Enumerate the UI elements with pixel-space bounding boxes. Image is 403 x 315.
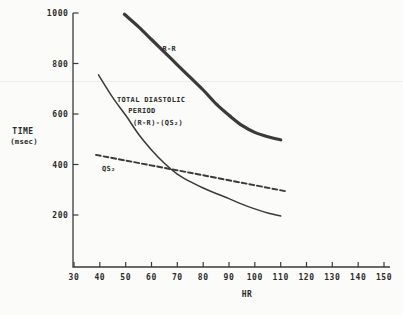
x-tick-label: 150 xyxy=(376,273,392,282)
x-tick-label: 90 xyxy=(224,273,235,282)
y-tick-label: 600 xyxy=(52,110,68,119)
total-diastolic-label-line1: TOTAL DIASTOLIC xyxy=(117,96,185,104)
x-tick-label: 70 xyxy=(172,273,183,282)
qs2-dashed-line xyxy=(96,155,286,191)
x-tick-label: 100 xyxy=(247,273,263,282)
rr-curve-label: R-R xyxy=(162,45,176,53)
y-tick-label: 200 xyxy=(52,211,68,220)
axis-line xyxy=(73,13,390,267)
x-tick-label: 120 xyxy=(298,273,314,282)
qs2-curve-label: QS₂ xyxy=(102,165,116,173)
x-tick-label: 110 xyxy=(273,273,289,282)
tick-labels: 2004006008001000304050607080901001101201… xyxy=(47,9,392,281)
x-tick-label: 30 xyxy=(69,273,80,282)
curve-labels: R-RTOTAL DIASTOLICPERIOD(R-R)-(QS₂)QS₂ xyxy=(102,45,185,172)
x-tick-label: 40 xyxy=(94,273,105,282)
x-tick-label: 60 xyxy=(146,273,157,282)
y-tick-label: 1000 xyxy=(47,9,69,18)
x-tick-label: 140 xyxy=(350,273,366,282)
curves xyxy=(96,14,286,216)
x-axis-title: HR xyxy=(242,290,253,299)
y-tick-label: 800 xyxy=(52,60,68,69)
diastolic-period-line-chart: 2004006008001000304050607080901001101201… xyxy=(0,0,403,315)
axes xyxy=(73,13,390,267)
x-tick-label: 50 xyxy=(120,273,131,282)
y-tick-label: 400 xyxy=(52,161,68,170)
total-diastolic-label-line3: (R-R)-(QS₂) xyxy=(133,119,183,127)
scanned-figure-page: 2004006008001000304050607080901001101201… xyxy=(0,0,403,315)
x-tick-label: 80 xyxy=(198,273,209,282)
total-diastolic-label-line2: PERIOD xyxy=(128,107,155,115)
y-axis-title-line2: (msec) xyxy=(10,137,38,146)
y-axis-title-line1: TIME xyxy=(12,127,33,136)
x-tick-label: 130 xyxy=(324,273,340,282)
